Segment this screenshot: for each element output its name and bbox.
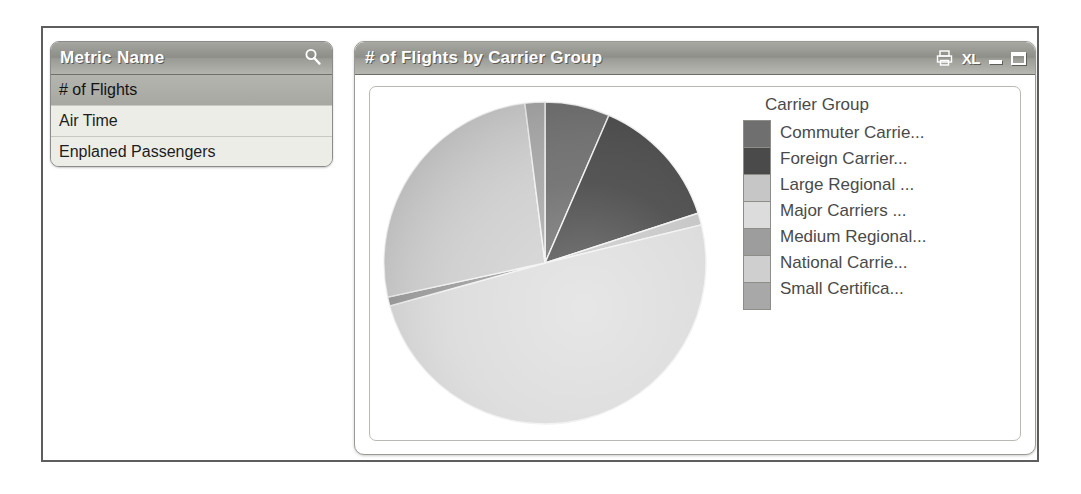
legend-swatch[interactable] — [744, 202, 770, 229]
minimize-button[interactable] — [989, 52, 1002, 64]
legend-swatch[interactable] — [744, 283, 770, 309]
legend-label[interactable]: Commuter Carrie... — [780, 120, 926, 146]
chart-panel: # of Flights by Carrier Group XL — [354, 41, 1036, 455]
plot-area: Carrier Group Commuter Carrie...Foreign … — [369, 86, 1021, 441]
legend-swatch[interactable] — [744, 256, 770, 283]
legend-swatch[interactable] — [744, 175, 770, 202]
legend-labels: Commuter Carrie...Foreign Carrier...Larg… — [780, 120, 926, 310]
legend-label[interactable]: Small Certifica... — [780, 276, 926, 302]
minimize-glyph — [989, 60, 1002, 64]
legend-title: Carrier Group — [765, 95, 1008, 115]
metric-panel-header: Metric Name — [51, 42, 332, 75]
print-icon[interactable] — [936, 50, 953, 66]
legend-label[interactable]: Large Regional ... — [780, 172, 926, 198]
export-excel-label: XL — [962, 50, 980, 67]
metric-item-label: # of Flights — [59, 81, 137, 98]
metric-item-label: Air Time — [59, 112, 118, 129]
chart-panel-titlebar: # of Flights by Carrier Group XL — [355, 42, 1035, 75]
search-icon[interactable] — [304, 48, 322, 66]
legend-label[interactable]: Medium Regional... — [780, 224, 926, 250]
pie-chart — [382, 91, 732, 436]
metric-item-flights[interactable]: # of Flights — [51, 75, 332, 106]
legend-label[interactable]: National Carrie... — [780, 250, 926, 276]
legend-swatch[interactable] — [744, 148, 770, 175]
metric-panel-title: Metric Name — [60, 48, 164, 68]
legend-swatch[interactable] — [744, 229, 770, 256]
pie-slice[interactable] — [384, 103, 545, 297]
application-frame: Metric Name # of Flights Air Time Enplan… — [41, 26, 1039, 462]
legend-label[interactable]: Major Carriers ... — [780, 198, 926, 224]
chart-panel-toolbar: XL — [936, 42, 1026, 74]
maximize-glyph — [1011, 52, 1026, 65]
metric-name-panel: Metric Name # of Flights Air Time Enplan… — [50, 41, 333, 167]
maximize-button[interactable] — [1011, 52, 1026, 65]
pie-slices — [384, 102, 706, 424]
pie-chart-svg[interactable] — [382, 91, 732, 436]
chart-panel-title: # of Flights by Carrier Group — [365, 48, 602, 68]
legend-body: Commuter Carrie...Foreign Carrier...Larg… — [743, 120, 1008, 310]
legend-label[interactable]: Foreign Carrier... — [780, 146, 926, 172]
export-excel-icon[interactable]: XL — [962, 50, 980, 67]
legend-swatches — [743, 120, 771, 310]
metric-item-enplaned-passengers[interactable]: Enplaned Passengers — [51, 137, 332, 167]
legend-swatch[interactable] — [744, 121, 770, 148]
metric-item-label: Enplaned Passengers — [59, 143, 216, 160]
chart-legend: Carrier Group Commuter Carrie...Foreign … — [743, 95, 1008, 310]
metric-item-air-time[interactable]: Air Time — [51, 106, 332, 137]
